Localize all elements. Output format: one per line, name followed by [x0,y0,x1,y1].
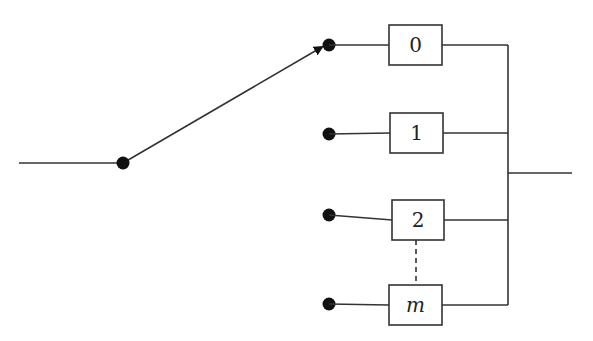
branch-1: 1 [323,113,509,153]
branch-0: 0 [323,25,509,65]
branch-label: m [406,293,425,317]
pivot-dot-icon [117,157,130,170]
branch-label: 2 [412,208,425,232]
branch-label: 0 [409,33,422,57]
branch-input-wire [329,215,392,220]
pivot-dot [117,157,130,170]
diagram-canvas: 012m [0,0,593,341]
branch-2: 2 [323,200,509,240]
switch-selector-diagram: 012m [0,0,593,341]
branch-label: 1 [410,121,423,145]
branch-m: m [323,285,509,325]
branch-input-wire [329,304,389,305]
switch-arm [123,47,322,163]
branch-input-wire [329,133,390,134]
switch-arm-line [123,47,322,163]
